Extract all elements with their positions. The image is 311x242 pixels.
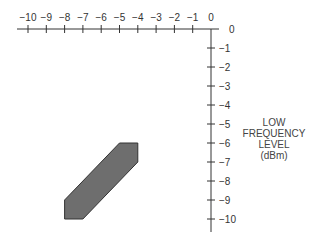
shaded-region bbox=[65, 143, 138, 219]
x-tick-label: −9 bbox=[41, 12, 53, 23]
y-tick-label: −2 bbox=[219, 62, 231, 73]
y-tick-label: −9 bbox=[219, 195, 231, 206]
y-tick-label: −8 bbox=[219, 176, 231, 187]
y-tick-label: −4 bbox=[219, 100, 231, 111]
y-tick-label: −6 bbox=[219, 138, 231, 149]
y-tick-label: −10 bbox=[219, 214, 236, 225]
x-tick-label: −8 bbox=[59, 12, 71, 23]
x-tick-label: −5 bbox=[114, 12, 126, 23]
y-axis-title: LOW FREQUENCY LEVEL (dBm) bbox=[238, 117, 310, 161]
y-axis-title-line-4: (dBm) bbox=[238, 150, 310, 161]
y-tick-label: 0 bbox=[229, 24, 235, 35]
y-axis-title-line-3: LEVEL bbox=[238, 139, 310, 150]
y-tick-label: −3 bbox=[219, 81, 231, 92]
x-tick-label: −3 bbox=[150, 12, 162, 23]
x-tick-label: −1 bbox=[187, 12, 199, 23]
y-axis-title-line-1: LOW bbox=[238, 117, 310, 128]
x-tick-label: −2 bbox=[169, 12, 181, 23]
y-tick-label: −7 bbox=[219, 157, 231, 168]
x-tick-label: −7 bbox=[77, 12, 89, 23]
y-axis: 0−1−2−3−4−5−6−7−8−9−10 bbox=[207, 24, 236, 232]
y-tick-label: −1 bbox=[219, 43, 231, 54]
y-axis-title-line-2: FREQUENCY bbox=[238, 128, 310, 139]
x-tick-label: −4 bbox=[132, 12, 144, 23]
y-tick-label: −5 bbox=[219, 119, 231, 130]
x-tick-label: 0 bbox=[208, 12, 214, 23]
x-axis: −10−9−8−7−6−5−4−3−2−10 bbox=[17, 12, 219, 33]
x-tick-label: −6 bbox=[95, 12, 107, 23]
x-tick-label: −10 bbox=[20, 12, 37, 23]
